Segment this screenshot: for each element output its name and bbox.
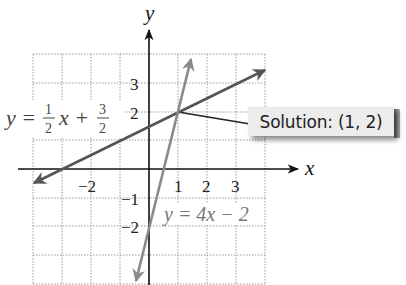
- y-tick-neg1: −1: [121, 190, 139, 209]
- callout-shadow-edge: [394, 109, 400, 138]
- coordinate-graph: y x −2 1 2 3 3 2 −1 −2 y = 1 2 x + 3 2 y…: [0, 0, 406, 285]
- y-tick-3: 3: [130, 75, 139, 94]
- y-axis-label: y: [143, 1, 155, 25]
- y-tick-2: 2: [130, 104, 139, 123]
- svg-text:y =: y =: [4, 105, 36, 130]
- equation-label-line2: y = 4x − 2: [162, 203, 249, 226]
- svg-text:3: 3: [99, 102, 106, 117]
- svg-text:2: 2: [99, 121, 106, 136]
- x-tick-2: 2: [202, 177, 211, 196]
- x-tick-3: 3: [231, 177, 240, 196]
- equation-label-line1: y = 1 2 x + 3 2: [4, 100, 124, 138]
- x-axis-label: x: [304, 156, 315, 180]
- svg-text:2: 2: [45, 121, 52, 136]
- solution-text: Solution: (1, 2): [260, 112, 383, 132]
- x-tick-neg2: −2: [78, 177, 96, 196]
- y-tick-neg2: −2: [121, 218, 139, 237]
- svg-text:x +: x +: [58, 105, 89, 130]
- line-y-4x-minus-2: [136, 59, 191, 281]
- x-tick-1: 1: [174, 177, 183, 196]
- solution-callout: Solution: (1, 2): [248, 107, 394, 136]
- callout-pointer: [178, 112, 250, 124]
- svg-text:1: 1: [45, 102, 52, 117]
